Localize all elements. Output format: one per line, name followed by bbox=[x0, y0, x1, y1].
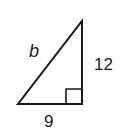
right-triangle-diagram: b 12 9 bbox=[0, 0, 126, 131]
hypotenuse-label: b bbox=[29, 41, 39, 61]
triangle-outline bbox=[18, 21, 82, 104]
right-angle-marker bbox=[66, 89, 82, 104]
horizontal-leg-label: 9 bbox=[44, 112, 53, 131]
vertical-leg-label: 12 bbox=[94, 55, 113, 74]
